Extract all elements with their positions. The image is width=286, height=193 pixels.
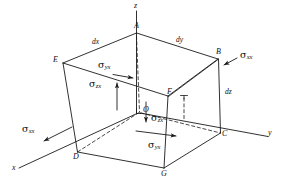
vertex-label-G: G: [161, 170, 167, 178]
vertex-label-B: B: [216, 48, 221, 56]
sigma-xx-right-arrow: [224, 58, 237, 65]
vertex-label-F: F: [167, 88, 172, 96]
sigma-glyph: σ: [89, 78, 96, 89]
sigma-xx-left-arrow: [44, 127, 72, 141]
vertex-label-E: E: [53, 56, 58, 64]
stress-label-sigma-zx-left: σzx: [89, 79, 101, 90]
sigma-glyph: σ: [148, 139, 155, 150]
stress-label-sigma-xx-left: σxx: [22, 124, 34, 135]
sigma-subscript: yx: [155, 143, 161, 150]
vertex-label-A: A: [134, 22, 139, 30]
stress-label-sigma-yx-bottom: σyx: [148, 140, 160, 151]
sigma-glyph: σ: [151, 112, 158, 123]
dimension-label-dx: dx: [92, 38, 99, 46]
dimension-label-dy: dy: [176, 36, 183, 44]
vertex-label-O: O: [143, 106, 149, 114]
x-axis-label: x: [12, 164, 16, 172]
sigma-subscript: xx: [29, 127, 35, 134]
sigma-yx-top-arrow: [113, 75, 133, 79]
z-axis-label: z: [134, 2, 137, 10]
dimension-label-dz: dz: [225, 88, 232, 96]
sigma-glyph: σ: [22, 123, 29, 134]
sigma-subscript: xx: [247, 53, 253, 60]
stress-cube-diagram: [0, 0, 286, 193]
stress-label-sigma-yx-top: σyx: [98, 60, 110, 71]
sigma-subscript: zx: [96, 82, 101, 89]
figure-canvas: z y x A B C D E F G O dx dy dz σyx σxx σ…: [0, 0, 286, 193]
sigma-glyph: σ: [98, 59, 105, 70]
sigma-glyph: σ: [240, 49, 247, 60]
vertex-label-C: C: [222, 130, 227, 138]
sigma-subscript: zx: [158, 116, 163, 123]
sigma-yx-bottom-arrow: [136, 131, 176, 136]
cube-top-face: [63, 33, 218, 96]
y-axis-label: y: [268, 129, 272, 137]
stress-label-sigma-xx-right: σxx: [240, 50, 252, 61]
stress-label-sigma-zx-center: σzx: [151, 113, 163, 124]
sigma-subscript: yx: [105, 63, 111, 70]
vertex-label-D: D: [73, 153, 79, 161]
inner-corner-tick: [181, 96, 188, 100]
